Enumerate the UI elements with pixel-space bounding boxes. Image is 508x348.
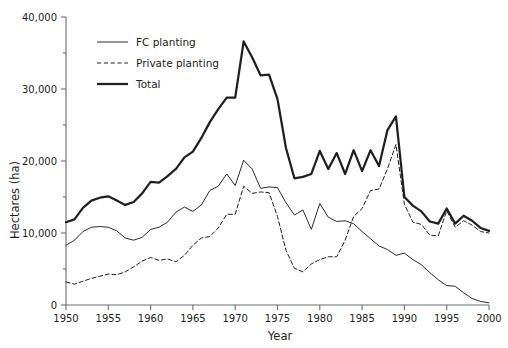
- y-tick-label: 30,000: [22, 84, 57, 95]
- y-axis: 010,00020,00030,00040,000 Hectares (ha): [8, 12, 66, 311]
- y-axis-title: Hectares (ha): [8, 161, 22, 239]
- x-tick-label: 1950: [53, 313, 78, 324]
- x-tick-label: 1975: [265, 313, 290, 324]
- y-tick-label: 20,000: [22, 156, 57, 167]
- series-line-fc-planting: [66, 160, 489, 303]
- series-line-total: [66, 41, 489, 230]
- x-tick-label: 1990: [392, 313, 417, 324]
- chart-legend: FC plantingPrivate plantingTotal: [97, 36, 219, 90]
- x-axis-ticks: 1950195519601965197019751980198519901995…: [53, 305, 501, 324]
- x-tick-label: 1960: [138, 313, 163, 324]
- data-series-group: [66, 41, 489, 302]
- chart-container: 010,00020,00030,00040,000 Hectares (ha) …: [0, 0, 508, 348]
- legend-label-total: Total: [135, 78, 161, 90]
- x-tick-label: 1955: [96, 313, 121, 324]
- x-tick-label: 1980: [307, 313, 332, 324]
- x-tick-label: 1985: [349, 313, 374, 324]
- x-axis: 1950195519601965197019751980198519901995…: [53, 305, 501, 343]
- y-axis-ticks: 010,00020,00030,00040,000: [22, 12, 66, 311]
- legend-label-private-planting: Private planting: [136, 57, 219, 69]
- series-line-private-planting: [66, 144, 489, 284]
- y-tick-label: 0: [51, 300, 57, 311]
- legend-label-fc-planting: FC planting: [136, 36, 196, 48]
- y-tick-label: 10,000: [22, 228, 57, 239]
- x-axis-title: Year: [267, 329, 293, 343]
- x-tick-label: 1965: [180, 313, 205, 324]
- x-tick-label: 2000: [476, 313, 501, 324]
- y-tick-label: 40,000: [22, 12, 57, 23]
- x-tick-label: 1970: [222, 313, 247, 324]
- line-chart: 010,00020,00030,00040,000 Hectares (ha) …: [0, 0, 508, 348]
- x-tick-label: 1995: [434, 313, 459, 324]
